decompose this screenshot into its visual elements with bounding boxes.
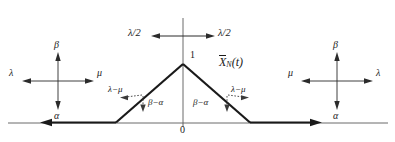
half-lambda-left-arrow: [151, 33, 183, 39]
cross-right-down-label: α: [333, 111, 338, 121]
height-right-label: β−α: [193, 98, 208, 107]
cross-left-down-label: α: [54, 111, 59, 121]
cross-left-right-label: μ: [97, 68, 102, 78]
origin-label: 0: [180, 125, 185, 135]
signal-base-symbol: X: [219, 55, 226, 69]
cross-right-right-label: λ: [376, 68, 380, 78]
half-lambda-right-arrow: [183, 33, 215, 39]
signal-right-tail: [250, 119, 322, 126]
cross-right-glyph: [301, 52, 373, 110]
signal-name-overbar-group: X: [219, 56, 226, 68]
slope-right-leader: [228, 95, 249, 100]
slope-right-label: λ−μ: [231, 85, 246, 94]
signal-left-tail: [40, 119, 116, 126]
peak-value-label: 1: [190, 50, 195, 60]
signal-name-label: XN(t): [219, 56, 243, 69]
signal-argument: (t): [232, 55, 243, 69]
signal-rising-edge: [116, 64, 183, 123]
height-left-label: β−α: [148, 98, 163, 107]
cross-left-up-label: β: [54, 40, 59, 50]
cross-right-up-label: β: [333, 40, 338, 50]
cross-left-glyph: [22, 52, 94, 110]
half-lambda-left-label: λ/2: [128, 28, 141, 39]
cross-left-left-label: λ: [9, 68, 13, 78]
cross-right-left-label: μ: [288, 68, 293, 78]
slope-left-label: λ−μ: [108, 85, 123, 94]
overbar: [219, 55, 226, 56]
slope-left-leader: [120, 95, 142, 100]
half-lambda-right-label: λ/2: [218, 28, 231, 39]
triangular-waveform-figure: λ/2 λ/2 1 0 XN(t) λ−μ λ−μ β−α β−α β α λ …: [0, 0, 395, 142]
